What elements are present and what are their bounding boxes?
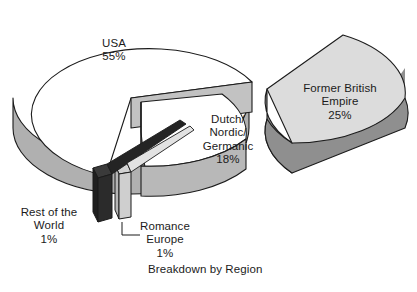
slice-label-rest-value: 1% <box>8 233 90 246</box>
pie-slice-romance-front <box>119 172 131 219</box>
slice-label-rest-name-2: World <box>8 219 90 232</box>
slice-label-rest-name-1: Rest of the <box>8 206 90 219</box>
slice-label-usa: USA 55% <box>78 37 150 64</box>
slice-label-dng-name-1: Dutch/ <box>185 113 271 126</box>
slice-label-former-british-empire: Former British Empire 25% <box>286 82 394 122</box>
slice-label-fbe-name-1: Former British <box>286 82 394 95</box>
slice-label-rest-of-the-world: Rest of the World 1% <box>8 206 90 246</box>
slice-label-dng-name-2: Nordic/ <box>185 126 271 139</box>
slice-label-fbe-value: 25% <box>286 109 394 122</box>
slice-label-fbe-name-2: Empire <box>286 95 394 108</box>
slice-label-dutch-nordic-germanic: Dutch/ Nordic/ Germanic 18% <box>185 113 271 167</box>
slice-label-romance-name-1: Romance <box>128 220 202 233</box>
pie-slice-romance-side <box>115 165 119 219</box>
slice-label-romance-name-2: Europe <box>128 233 202 246</box>
slice-label-usa-name: USA <box>78 37 150 50</box>
slice-label-usa-value: 55% <box>78 50 150 63</box>
chart-caption: Breakdown by Region <box>148 263 262 276</box>
slice-label-romance-europe: Romance Europe 1% <box>128 220 202 260</box>
slice-label-dng-name-3: Germanic <box>185 140 271 153</box>
slice-label-romance-value: 1% <box>128 247 202 260</box>
pie-chart-figure: USA 55% Former British Empire 25% Dutch/… <box>0 0 417 292</box>
slice-label-dng-value: 18% <box>185 153 271 166</box>
pie-slice-rest-front <box>98 174 112 222</box>
pie-slice-rest-side <box>93 168 98 222</box>
